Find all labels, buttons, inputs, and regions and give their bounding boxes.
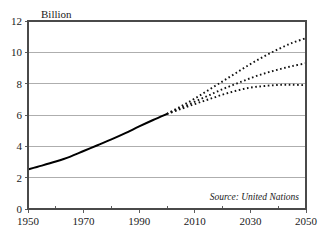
y-tick-label-8: 8 bbox=[17, 78, 23, 90]
y-tick-label-10: 10 bbox=[11, 46, 23, 58]
y-tick-label-0: 0 bbox=[17, 203, 23, 215]
population-chart: Billion 024681012 1950197019902010203020… bbox=[0, 0, 325, 245]
chart-background bbox=[0, 0, 325, 245]
y-tick-label-2: 2 bbox=[17, 172, 23, 184]
x-tick-label-2050: 2050 bbox=[295, 215, 318, 227]
y-tick-label-12: 12 bbox=[11, 15, 22, 27]
y-axis-unit-label: Billion bbox=[41, 8, 72, 20]
x-tick-label-1950: 1950 bbox=[17, 215, 40, 227]
y-tick-label-4: 4 bbox=[17, 140, 23, 152]
source-annotation: Source: United Nations bbox=[210, 192, 300, 202]
chart-canvas: Billion 024681012 1950197019902010203020… bbox=[0, 0, 325, 245]
x-tick-label-1970: 1970 bbox=[73, 215, 96, 227]
x-tick-label-2030: 2030 bbox=[239, 215, 262, 227]
x-tick-label-1990: 1990 bbox=[128, 215, 151, 227]
y-tick-label-6: 6 bbox=[17, 109, 23, 121]
x-tick-label-2010: 2010 bbox=[184, 215, 207, 227]
